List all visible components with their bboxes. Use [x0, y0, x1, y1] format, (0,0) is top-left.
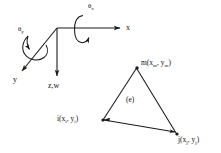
node-j-sub1: j — [186, 140, 187, 145]
node-m-close: ) — [168, 58, 171, 67]
node-label-m: m(xm, ym) — [141, 59, 171, 67]
theta-y-label: θy — [18, 26, 24, 33]
theta-x-rotation-arc — [75, 16, 90, 43]
edge-i-j — [104, 120, 175, 132]
node-m-prefix: m(x — [141, 58, 153, 67]
node-label-j: j(xj, yj) — [178, 136, 199, 144]
z-w-axis-label: z,w — [48, 82, 59, 90]
figure-canvas — [0, 0, 221, 153]
node-m-sub2: m — [164, 63, 168, 68]
x-axis-label: x — [126, 24, 130, 32]
theta-x-label: θx — [88, 3, 94, 10]
node-i-sub1: i — [65, 119, 66, 124]
y-axis-label: y — [13, 76, 17, 84]
node-j-close: ) — [197, 135, 200, 144]
node-j-sub2: j — [195, 140, 196, 145]
edge-m-j — [137, 69, 176, 133]
coordinate-axes — [22, 28, 120, 76]
node-m-sub1: m — [153, 63, 157, 68]
y-axis-line — [22, 28, 57, 71]
node-point-m — [135, 66, 138, 69]
node-i-sub2: i — [74, 119, 75, 124]
node-label-i: i(xi, yi) — [57, 115, 78, 123]
theta-x-subscript: x — [91, 6, 94, 11]
triangle-element — [101, 66, 178, 135]
element-label: (e) — [126, 96, 134, 104]
theta-y-subscript: y — [21, 29, 24, 34]
node-point-i — [101, 118, 104, 121]
node-i-close: ) — [76, 114, 79, 123]
theta-y-rotation-arc — [23, 36, 48, 60]
